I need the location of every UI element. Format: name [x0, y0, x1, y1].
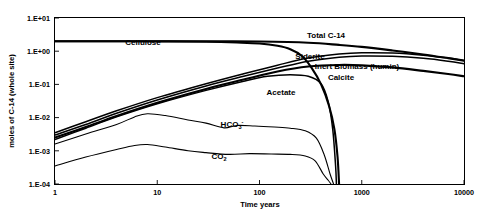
chart-container: 110100100010000 1.E+011.E+001.E-011.E-02…: [0, 0, 486, 223]
y-axis-title: moles of C-14 (whole site): [7, 54, 16, 148]
y-tick-label-1.E+00: 1.E+00: [27, 47, 50, 56]
y-tick-label-1.E-04: 1.E-04: [29, 180, 50, 189]
curve-label-acetate: Acetate: [267, 88, 296, 97]
x-tick-label-100: 100: [254, 188, 266, 197]
y-tick-label-1.E-03: 1.E-03: [29, 147, 50, 156]
x-tick-label-10: 10: [153, 188, 161, 197]
chart-background: [0, 0, 486, 223]
curve-label-inert-biomass-humin: Inert Biomass (humin): [315, 62, 400, 71]
c14-log-log-line-chart: 110100100010000 1.E+011.E+001.E-011.E-02…: [0, 0, 486, 223]
curve-label-siderite: Siderite: [295, 52, 325, 61]
y-tick-label-1.E+01: 1.E+01: [27, 14, 50, 23]
curve-label-total-c-14: Total C-14: [307, 31, 346, 40]
x-tick-label-10000: 10000: [454, 188, 474, 197]
y-tick-label-1.E-01: 1.E-01: [29, 80, 50, 89]
curve-label-cellulose: Cellulose: [125, 38, 161, 47]
x-tick-label-1: 1: [53, 188, 57, 197]
x-axis-title: Time years: [240, 200, 280, 209]
curve-label-calcite: Calcite: [328, 73, 355, 82]
y-tick-label-1.E-02: 1.E-02: [29, 113, 50, 122]
x-tick-label-1000: 1000: [354, 188, 370, 197]
